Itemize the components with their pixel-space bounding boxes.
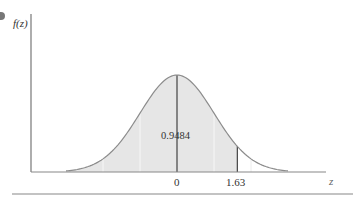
x-axis-label: z (329, 176, 333, 187)
area-value-label: 0.9484 (161, 131, 190, 142)
normal-curve-chart (0, 0, 353, 198)
tick-label-1-63: 1.63 (226, 177, 245, 188)
shaded-region (66, 75, 237, 172)
y-axis-label: f(z) (13, 18, 28, 29)
shaded-area (66, 75, 237, 172)
tick-label-zero: 0 (174, 177, 180, 188)
